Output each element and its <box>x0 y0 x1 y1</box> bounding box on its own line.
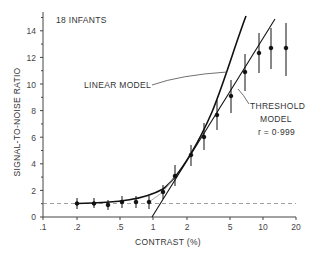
x-tick-label: 5 <box>228 222 233 232</box>
y-tick-label: 4 <box>31 159 36 169</box>
x-tick-label: 1 <box>151 222 156 232</box>
linear-model-label: LINEAR MODEL <box>84 80 151 90</box>
x-tick-label: .2 <box>73 222 80 232</box>
x-tick-label: 20 <box>291 222 301 232</box>
threshold-model-line <box>152 19 275 217</box>
data-points <box>75 23 288 210</box>
threshold-model-label-2: MODEL <box>260 114 292 124</box>
r-value-label: r = 0·999 <box>258 127 295 137</box>
x-axis-label: CONTRAST (%) <box>135 237 201 247</box>
y-tick-label: 12 <box>27 53 37 63</box>
y-tick-label: 2 <box>31 186 36 196</box>
chart-title: 18 INFANTS <box>56 15 107 25</box>
chart: 0 2 4 6 8 10 12 14 .1 .2 .5 1 2 5 10 20 … <box>0 0 314 257</box>
y-tick-label: 14 <box>27 26 37 36</box>
threshold-model-arrow <box>238 89 249 104</box>
y-tick-label: 6 <box>31 133 36 143</box>
x-tick-label: 2 <box>185 222 190 232</box>
y-axis-label: SIGNAL-TO-NOISE RATIO <box>12 67 22 176</box>
linear-model-curve <box>77 16 246 204</box>
y-tick-label: 10 <box>27 80 37 90</box>
x-tick-label: 10 <box>258 222 268 232</box>
y-tick-label: 0 <box>31 212 36 222</box>
x-tick-label: .5 <box>116 222 123 232</box>
y-tick-label: 8 <box>31 106 36 116</box>
x-tick-label: .1 <box>39 222 46 232</box>
linear-model-arrow <box>152 72 227 85</box>
threshold-model-label: THRESHOLD <box>250 101 305 111</box>
